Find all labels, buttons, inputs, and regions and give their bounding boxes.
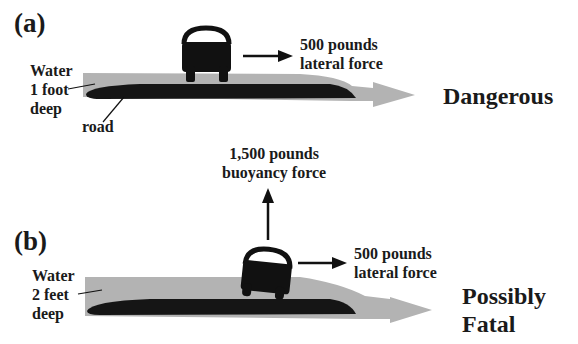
water-depth-label-b: Water 2 feet deep	[32, 266, 75, 323]
water-label-line: Water	[30, 61, 73, 80]
road-a	[86, 84, 356, 99]
panel-label-a: (a)	[14, 9, 45, 37]
panel-label-b: (b)	[14, 227, 47, 255]
verdict-possibly-fatal: Possibly Fatal	[462, 282, 546, 338]
force-label-line: lateral force	[300, 54, 383, 73]
force-label-line: 500 pounds	[300, 35, 383, 54]
lateral-force-label-a: 500 pounds lateral force	[300, 35, 383, 73]
water-label-line: deep	[30, 99, 73, 118]
force-label-line: 1,500 pounds	[222, 144, 326, 163]
force-label-line: 500 pounds	[354, 244, 437, 263]
water-label-line: Water	[32, 266, 75, 285]
buoyancy-force-label: 1,500 pounds buoyancy force	[222, 144, 326, 182]
verdict-line: Fatal	[462, 310, 546, 338]
water-label-line: 2 feet	[32, 285, 75, 304]
arrow-right-icon	[298, 257, 347, 269]
lateral-force-label-b: 500 pounds lateral force	[354, 244, 437, 282]
water-label-line: 1 foot	[30, 80, 73, 99]
road-b	[87, 299, 356, 315]
verdict-dangerous: Dangerous	[443, 82, 553, 110]
water-label-line: deep	[32, 304, 75, 323]
water-depth-label-a: Water 1 foot deep	[30, 61, 73, 118]
force-label-line: lateral force	[354, 263, 437, 282]
arrow-up-icon	[262, 188, 274, 240]
force-label-line: buoyancy force	[222, 163, 326, 182]
road-label: road	[82, 117, 114, 136]
arrow-right-icon	[243, 50, 293, 62]
verdict-line: Possibly	[462, 282, 546, 310]
